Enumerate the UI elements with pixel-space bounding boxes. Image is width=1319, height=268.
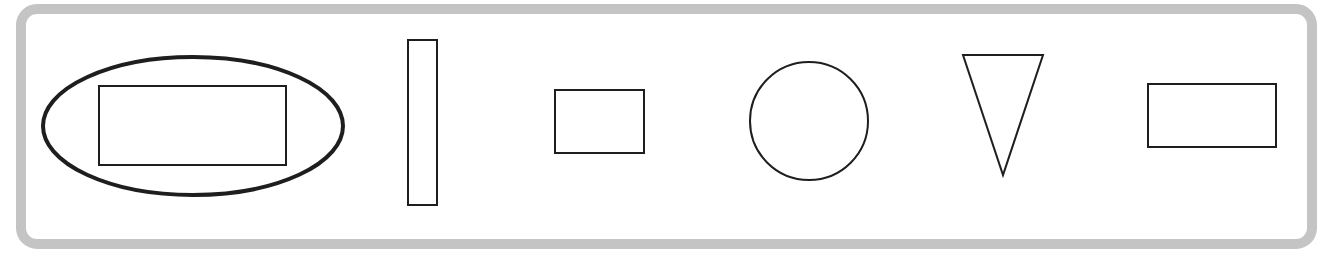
inverted-triangle bbox=[963, 55, 1043, 175]
shapes-canvas bbox=[0, 0, 1319, 268]
circled-highlight-ellipse bbox=[43, 57, 343, 195]
wide-rectangle-circled bbox=[99, 86, 286, 165]
tall-narrow-rectangle bbox=[408, 40, 437, 205]
small-rectangle bbox=[555, 90, 644, 153]
right-rectangle bbox=[1148, 84, 1276, 147]
rounded-frame bbox=[21, 9, 1312, 244]
shapes-figure bbox=[0, 0, 1319, 268]
circle-shape bbox=[750, 62, 868, 180]
